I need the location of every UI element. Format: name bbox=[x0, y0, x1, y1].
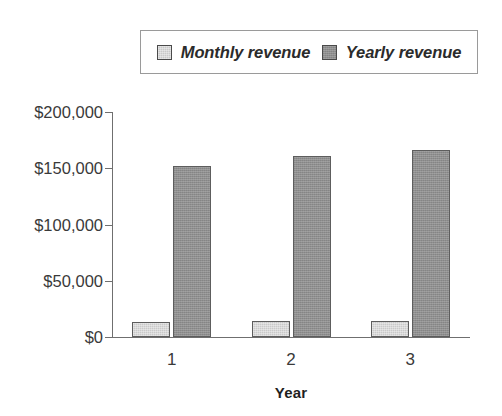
y-axis-tick bbox=[105, 337, 112, 338]
y-axis-tick bbox=[105, 225, 112, 226]
bar-yearly-year-1 bbox=[173, 166, 211, 337]
x-axis-line bbox=[112, 337, 470, 338]
bar-monthly-year-2 bbox=[252, 321, 290, 337]
x-axis-tick-label: 2 bbox=[286, 350, 295, 370]
legend-entry-yearly-revenue: Yearly revenue bbox=[322, 43, 461, 62]
bar-yearly-year-2 bbox=[293, 156, 331, 337]
y-axis-tick-label: $150,000 bbox=[34, 159, 103, 178]
y-axis-tick bbox=[105, 281, 112, 282]
y-axis-tick-label: $200,000 bbox=[34, 103, 103, 122]
legend-swatch-icon-monthly bbox=[157, 45, 172, 60]
bar-yearly-year-3 bbox=[412, 150, 450, 337]
x-axis-tick-label: 1 bbox=[167, 350, 176, 370]
legend-label-yearly: Yearly revenue bbox=[346, 43, 461, 62]
legend-label-monthly: Monthly revenue bbox=[181, 43, 311, 62]
x-axis-tick-label: 3 bbox=[406, 350, 415, 370]
bar-monthly-year-1 bbox=[132, 322, 170, 337]
y-axis-tick bbox=[105, 112, 112, 113]
legend-entry-monthly-revenue: Monthly revenue bbox=[157, 43, 311, 62]
chart-legend: Monthly revenue Yearly revenue bbox=[140, 30, 478, 74]
x-axis-title: Year bbox=[112, 384, 470, 401]
y-axis-tick bbox=[105, 168, 112, 169]
chart-plot-area: $0$50,000$100,000$150,000$200,000 123 Ye… bbox=[112, 112, 470, 337]
y-axis-tick-label: $0 bbox=[85, 328, 103, 347]
y-axis-line bbox=[112, 112, 113, 337]
y-axis-tick-label: $100,000 bbox=[34, 215, 103, 234]
y-axis-tick-label: $50,000 bbox=[43, 271, 103, 290]
bar-monthly-year-3 bbox=[371, 321, 409, 337]
legend-swatch-icon-yearly bbox=[322, 45, 337, 60]
